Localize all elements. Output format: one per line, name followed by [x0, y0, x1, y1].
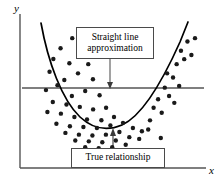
scatter-point: [95, 126, 99, 130]
scatter-point: [55, 83, 59, 87]
scatter-point: [87, 139, 91, 143]
scatter-point: [108, 123, 112, 127]
scatter-point: [91, 107, 95, 111]
scatter-point: [179, 49, 183, 53]
scatter-point: [117, 130, 121, 134]
scatter-point: [114, 138, 118, 142]
scatter-point: [137, 137, 141, 141]
scatter-point: [51, 57, 55, 61]
callout-true-relationship-label: True relationship: [86, 152, 151, 163]
scatter-point: [99, 118, 103, 122]
scatter-point: [140, 129, 144, 133]
scatter-point: [83, 89, 87, 93]
scatter-point: [185, 39, 189, 43]
scatter-point: [171, 75, 175, 79]
scatter-point: [44, 88, 48, 92]
scatter-point: [81, 125, 85, 129]
scatter-point: [47, 70, 51, 74]
scatter-point: [72, 115, 76, 119]
scatter-point: [70, 94, 74, 98]
scatter-point: [163, 85, 167, 89]
scatter-point: [85, 117, 89, 121]
scatter-point: [63, 131, 67, 135]
callout-true-relationship: True relationship: [71, 148, 165, 168]
scatter-point: [45, 110, 49, 114]
true-relationship-arrow-head: [110, 128, 116, 136]
scatter-point: [174, 62, 178, 66]
figure-container: Straight line approximation True relatio…: [0, 0, 221, 187]
scatter-point: [62, 78, 66, 82]
scatter-point: [100, 140, 104, 144]
scatter-point: [86, 62, 90, 66]
scatter-point: [97, 93, 101, 97]
scatter-point: [104, 132, 108, 136]
scatter-point: [172, 101, 176, 105]
scatter-point: [167, 94, 171, 98]
scatter-point: [177, 84, 181, 88]
scatter-point: [189, 53, 193, 57]
scatter-point: [131, 126, 135, 130]
callout-straight-line-label: Straight line approximation: [87, 32, 142, 54]
x-axis-label: x: [209, 164, 214, 176]
scatter-point: [70, 36, 74, 40]
scatter-point: [127, 135, 131, 139]
scatter-point: [193, 36, 197, 40]
scatter-point: [165, 71, 169, 75]
scatter-point: [182, 57, 186, 61]
scatter-point: [121, 121, 125, 125]
scatter-point: [58, 46, 62, 50]
y-axis-label: y: [14, 2, 19, 14]
scatter-point: [151, 106, 155, 110]
scatter-point: [59, 111, 63, 115]
scatter-point: [124, 143, 128, 147]
scatter-point: [91, 77, 95, 81]
callout-straight-line-approximation: Straight line approximation: [76, 27, 154, 59]
scatter-point: [76, 71, 80, 75]
scatter-point: [77, 132, 81, 136]
scatter-point: [160, 111, 164, 115]
scatter-point: [73, 138, 77, 142]
scatter-point: [146, 127, 150, 131]
scatter-point: [90, 133, 94, 137]
scatter-point: [51, 100, 55, 104]
scatter-point: [156, 97, 160, 101]
scatter-point: [78, 105, 82, 109]
scatter-point: [54, 122, 58, 126]
scatter-point: [148, 118, 152, 122]
scatter-point: [64, 102, 68, 106]
scatter-point: [104, 106, 108, 110]
scatter-point: [68, 124, 72, 128]
scatter-point: [67, 61, 71, 65]
scatter-point: [112, 115, 116, 119]
scatter-point: [159, 136, 163, 140]
